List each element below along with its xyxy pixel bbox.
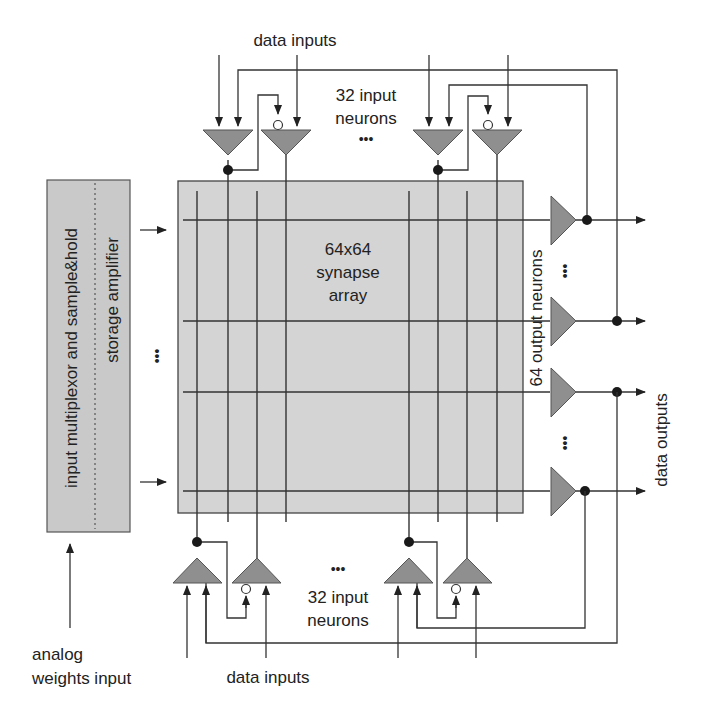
bottom-input-neuron-3 [384, 558, 433, 583]
top-inverter-bubble-2 [484, 121, 493, 130]
top-ellipsis: ••• [359, 131, 374, 147]
bottom-inverter-bubble-2 [452, 585, 461, 594]
top-inverter-bubble-1 [274, 121, 283, 130]
synapse-array: 64x64 synapse array [178, 155, 550, 560]
output-neuron-2 [551, 297, 576, 346]
array-label-line3: array [329, 286, 368, 305]
top-input-neurons-label-1: 32 input [336, 86, 397, 105]
analog-label-line1: analog [32, 645, 83, 664]
left-ellipsis: ••• [149, 349, 165, 364]
output-ellipsis-1: ••• [557, 264, 573, 279]
array-label-line2: synapse [316, 263, 379, 282]
output-junction-2 [612, 316, 622, 326]
left-block-main-label: input multiplexor and sample&hold [62, 228, 81, 488]
bottom-input-neurons-label-1: 32 input [308, 588, 369, 607]
output-ellipsis-2: ••• [557, 436, 573, 451]
bottom-junction-2 [404, 537, 414, 547]
bottom-ellipsis: ••• [331, 561, 346, 577]
top-junction-1 [223, 165, 233, 175]
output-neuron-4 [551, 467, 576, 516]
bottom-data-inputs-label: data inputs [226, 668, 309, 687]
top-input-neuron-4 [472, 130, 522, 155]
top-input-neurons-label-2: neurons [335, 109, 396, 128]
bottom-junction-1 [192, 537, 202, 547]
synapse-array-diagram: input multiplexor and sample&hold storag… [0, 0, 705, 723]
output-neuron-1 [551, 196, 576, 245]
left-block-sub-label: storage amplifier [103, 237, 122, 363]
bottom-inverter-bubble-1 [242, 585, 251, 594]
top-junction-2 [433, 165, 443, 175]
array-label-line1: 64x64 [325, 240, 371, 259]
data-outputs-label: data outputs [652, 393, 671, 487]
input-multiplexor-block: input multiplexor and sample&hold storag… [47, 180, 130, 532]
bottom-input-neuron-4 [443, 558, 492, 583]
analog-label-line2: weights input [31, 669, 132, 688]
bottom-input-neurons-label-2: neurons [307, 611, 368, 630]
top-data-inputs-label: data inputs [253, 31, 336, 50]
bottom-input-neuron-1 [173, 558, 222, 583]
bottom-input-neuron-2 [232, 558, 281, 583]
top-input-neuron-3 [413, 130, 463, 155]
output-junction-1 [582, 215, 592, 225]
output-neurons-label: 64 output neurons [527, 249, 546, 386]
output-neuron-3 [551, 368, 576, 417]
top-input-neuron-2 [261, 130, 311, 155]
top-input-neuron-1 [203, 130, 253, 155]
